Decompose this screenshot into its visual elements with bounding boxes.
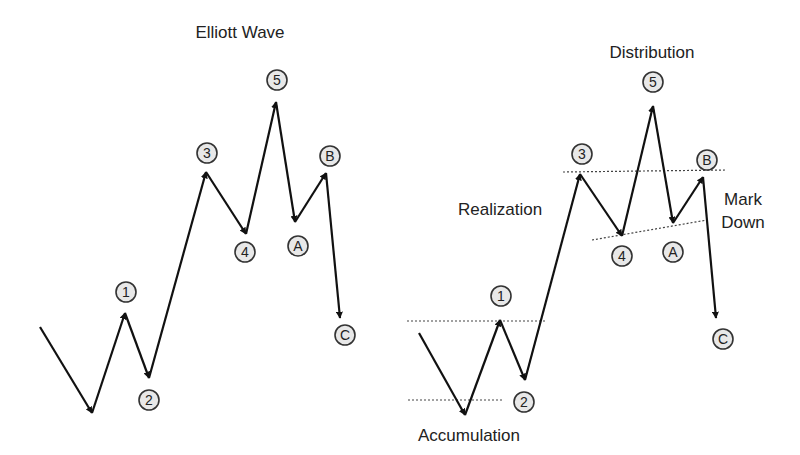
elliott-label-c-icon: C [335,325,355,345]
market-cycle-labels: 12345ABC [491,72,733,412]
elliott-label-5-icon: 5 [267,70,287,90]
svg-text:A: A [668,244,678,260]
svg-text:C: C [340,327,350,343]
elliott-label-1-icon: 1 [116,282,136,302]
elliott-label-3-icon: 3 [197,143,217,163]
cycle-segment-9 [703,177,716,318]
cycle-segment-5 [580,174,622,236]
market-cycle-panel: 12345ABC DistributionRealizationMarkDown… [407,43,765,445]
elliott-label-b-icon: B [320,146,340,166]
cycle-segment-8 [673,177,703,223]
elliott-segment-8 [295,173,326,222]
cycle-segment-7 [653,106,673,223]
svg-text:3: 3 [203,145,211,161]
elliott-segment-7 [276,102,295,222]
svg-text:2: 2 [520,394,528,410]
cycle-segment-3 [500,320,525,380]
cycle-label-1-icon: 1 [491,286,511,306]
elliott-segment-2 [92,313,125,413]
dotted-level-line-3 [563,170,726,172]
phase-label-distribution: Distribution [609,43,694,62]
svg-text:1: 1 [122,284,130,300]
elliott-wave-labels: 12345ABC [116,70,355,410]
cycle-label-3-icon: 3 [572,144,592,164]
elliott-wave-path [40,102,340,413]
cycle-label-4-icon: 4 [612,246,632,266]
svg-text:5: 5 [649,74,657,90]
elliott-segment-6 [246,102,276,234]
support-resistance-lines [407,170,726,400]
cycle-label-a-icon: A [663,242,683,262]
svg-text:A: A [293,238,303,254]
svg-text:1: 1 [497,288,505,304]
elliott-segment-5 [206,172,246,234]
svg-text:3: 3 [578,146,586,162]
cycle-label-b-icon: B [697,150,717,170]
cycle-segment-2 [465,320,500,415]
svg-text:C: C [718,331,728,347]
elliott-wave-diagram: Elliott Wave 12345ABC 12345ABC Distribut… [0,0,800,455]
cycle-label-5-icon: 5 [643,72,663,92]
market-phase-labels: DistributionRealizationMarkDownAccumulat… [418,43,765,445]
elliott-wave-panel: Elliott Wave 12345ABC [40,23,355,413]
elliott-segment-9 [326,173,340,318]
svg-text:4: 4 [241,244,249,260]
elliott-segment-3 [125,313,149,378]
svg-text:5: 5 [273,72,281,88]
elliott-label-4-icon: 4 [235,242,255,262]
elliott-label-a-icon: A [288,236,308,256]
svg-text:4: 4 [618,248,626,264]
svg-text:B: B [702,152,711,168]
svg-text:B: B [325,148,334,164]
phase-label-accumulation: Accumulation [418,426,520,445]
elliott-segment-4 [149,172,206,378]
cycle-segment-1 [419,333,465,415]
cycle-label-c-icon: C [713,329,733,349]
phase-label-realization: Realization [458,200,542,219]
elliott-label-2-icon: 2 [139,390,159,410]
svg-text:2: 2 [145,392,153,408]
elliott-wave-title: Elliott Wave [195,23,284,42]
dotted-level-line-4 [592,220,707,240]
elliott-segment-1 [40,327,92,413]
cycle-label-2-icon: 2 [514,392,534,412]
phase-label-down: Down [721,213,764,232]
phase-label-mark: Mark [724,190,762,209]
